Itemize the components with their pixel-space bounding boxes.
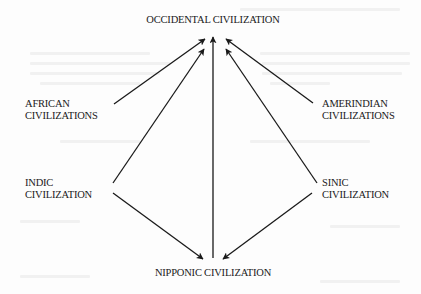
node-sinic-civilization: SINIC CIVILIZATION [322,177,389,201]
node-occidental-civilization: OCCIDENTAL CIVILIZATION [146,14,279,26]
node-nipponic-label: NIPPONIC CIVILIZATION [155,267,271,278]
node-indic-label-line2: CIVILIZATION [25,189,92,201]
arrow-sinic-to-nipponic [223,193,312,259]
arrow-indic-to-nipponic [113,193,203,259]
node-sinic-label-line2: CIVILIZATION [322,189,389,201]
node-indic-civilization: INDIC CIVILIZATION [25,177,92,201]
arrow-african-to-occidental [114,39,205,104]
civilization-influence-diagram: OCCIDENTAL CIVILIZATION AFRICAN CIVILIZA… [0,0,421,294]
node-amerindian-label-line1: AMERINDIAN [322,98,395,110]
node-african-civilizations: AFRICAN CIVILIZATIONS [25,98,98,122]
arrows-layer [0,0,421,294]
node-indic-label-line1: INDIC [25,177,92,189]
node-african-label-line1: AFRICAN [25,98,98,110]
node-nipponic-civilization: NIPPONIC CIVILIZATION [155,267,271,279]
node-sinic-label-line1: SINIC [322,177,389,189]
arrow-amerindian-to-occidental [226,39,313,103]
node-occidental-label: OCCIDENTAL CIVILIZATION [146,14,279,25]
node-african-label-line2: CIVILIZATIONS [25,110,98,122]
arrow-indic-to-occidental [113,49,204,183]
node-amerindian-civilizations: AMERINDIAN CIVILIZATIONS [322,98,395,122]
node-amerindian-label-line2: CIVILIZATIONS [322,110,395,122]
arrow-sinic-to-occidental [226,49,317,183]
